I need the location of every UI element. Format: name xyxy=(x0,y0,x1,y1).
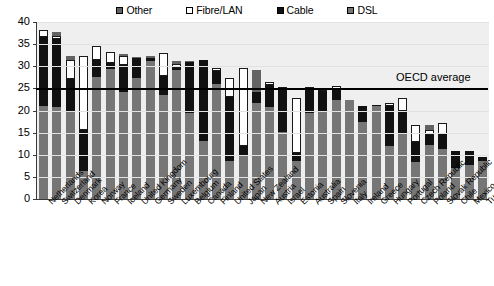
bar-segment-cable xyxy=(425,135,434,145)
y-axis-tick-label: 25 xyxy=(6,82,30,93)
y-axis-tick xyxy=(33,155,37,156)
x-axis-label: Germany xyxy=(153,200,159,206)
x-axis-label: Spain xyxy=(326,200,332,206)
x-axis-label: Denmark xyxy=(73,200,79,206)
x-axis-label: Israel xyxy=(286,200,292,206)
x-axis-label: Luxembourg xyxy=(180,200,186,206)
x-axis-label: Greece xyxy=(379,200,385,206)
x-axis-label: Switzerland xyxy=(60,200,66,206)
gridline xyxy=(37,66,489,67)
x-axis-label: Slovenia xyxy=(339,200,345,206)
bar-segment-cable xyxy=(39,37,48,106)
x-axis-label: Sweden xyxy=(166,200,172,206)
legend-swatch-other-icon xyxy=(116,7,123,14)
legend-item-dsl[interactable]: DSL xyxy=(347,5,377,16)
bar-segment-fibre xyxy=(119,56,128,65)
y-axis-tick xyxy=(33,44,37,45)
bar-segment-fibre xyxy=(159,53,168,75)
bar-segment-cable xyxy=(212,71,221,84)
x-axis-label: Finland xyxy=(219,200,225,206)
bar-segment-cable xyxy=(398,111,407,133)
y-axis-tick xyxy=(33,133,37,134)
oecd-average-label: OECD average xyxy=(396,71,471,83)
legend-item-cable[interactable]: Cable xyxy=(277,5,314,16)
y-axis-tick xyxy=(33,66,37,67)
bar-segment-cable xyxy=(385,106,394,146)
legend-swatch-fibre-icon xyxy=(186,7,193,14)
bar-segment-cable xyxy=(185,62,194,113)
bar-segment-fibre xyxy=(225,78,234,97)
bar-segment-cable xyxy=(52,39,61,106)
y-axis-tick-label: 40 xyxy=(6,16,30,27)
x-axis-label: Portugal xyxy=(406,200,412,206)
bar-segment-dsl xyxy=(146,61,155,200)
x-axis-label: Belgium xyxy=(193,200,199,206)
x-axis-labels: NetherlandsSwitzerlandDenmarkKoreaNorway… xyxy=(36,200,488,286)
bar-segment-cable xyxy=(225,97,234,161)
bar-segment-cable xyxy=(252,92,261,102)
bar-segment-fibre xyxy=(92,46,101,60)
bar-austria[interactable] xyxy=(265,82,274,199)
y-axis-tick xyxy=(33,111,37,112)
x-axis-label: Italy xyxy=(352,200,358,206)
x-axis-label: Korea xyxy=(87,200,93,206)
bar-segment-cable xyxy=(79,130,88,171)
x-axis-label: Slovak Republic xyxy=(445,200,451,206)
x-axis-label: Czech Republic xyxy=(419,200,425,206)
x-axis-label: Ireland xyxy=(366,200,372,206)
y-axis-tick xyxy=(33,177,37,178)
legend-swatch-dsl-icon xyxy=(347,7,354,14)
legend-label: DSL xyxy=(357,5,377,16)
bar-segment-fibre xyxy=(39,30,48,37)
legend-item-other[interactable]: Other xyxy=(116,5,152,16)
x-axis-label: France xyxy=(113,200,119,206)
gridline xyxy=(37,111,489,112)
x-axis-label: Hungary xyxy=(392,200,398,206)
legend-item-fibre[interactable]: Fibre/LAN xyxy=(186,5,242,16)
y-axis-tick-label: 15 xyxy=(6,127,30,138)
bar-australia[interactable] xyxy=(305,87,314,199)
bar-segment-fibre xyxy=(292,98,301,153)
y-axis-tick xyxy=(33,22,37,23)
legend-label: Cable xyxy=(287,5,314,16)
bar-segment-fibre xyxy=(239,68,248,145)
bar-switzerland[interactable] xyxy=(52,32,61,199)
bar-segment-dsl xyxy=(39,106,48,199)
y-axis-tick-label: 5 xyxy=(6,171,30,182)
bar-segment-cable xyxy=(318,91,327,112)
bar-segment-cable xyxy=(92,60,101,77)
gridline xyxy=(37,133,489,134)
gridline xyxy=(37,155,489,156)
bar-segment-cable xyxy=(438,134,447,149)
legend-swatch-cable-icon xyxy=(277,7,284,14)
x-axis-label: Austria xyxy=(273,200,279,206)
x-axis-label: Chile xyxy=(459,200,465,206)
bar-segment-dsl xyxy=(132,78,141,199)
broadband-subscriptions-chart: OtherFibre/LANCableDSL 0510152025303540 … xyxy=(0,0,494,286)
y-axis-tick-label: 35 xyxy=(6,38,30,49)
bar-segment-cable xyxy=(132,58,141,78)
bar-segment-cable xyxy=(358,106,367,122)
gridline xyxy=(37,44,489,45)
x-axis-label: Estonia xyxy=(299,200,305,206)
legend-label: Other xyxy=(126,5,152,16)
bar-segment-cable xyxy=(332,89,341,100)
bar-segment-cable xyxy=(199,60,208,141)
y-axis-tick-label: 0 xyxy=(6,193,30,204)
y-axis-tick-label: 20 xyxy=(6,105,30,116)
y-axis-tick-label: 10 xyxy=(6,149,30,160)
legend-label: Fibre/LAN xyxy=(196,5,242,16)
bar-segment-cable xyxy=(411,142,420,162)
x-axis-label: United States xyxy=(233,200,239,206)
x-axis-label: Australia xyxy=(313,200,319,206)
bar-segment-cable xyxy=(66,79,75,113)
x-axis-label: Canada xyxy=(206,200,212,206)
x-axis-label: Japan xyxy=(246,200,252,206)
x-axis-label: United Kingdom xyxy=(140,200,146,206)
bar-netherlands[interactable] xyxy=(39,30,48,199)
bar-segment-fibre xyxy=(398,98,407,111)
chart-legend: OtherFibre/LANCableDSL xyxy=(0,2,494,18)
bar-segment-fibre xyxy=(106,52,115,63)
x-axis-label: Turkey xyxy=(485,200,491,206)
x-axis-label: Poland xyxy=(432,200,438,206)
